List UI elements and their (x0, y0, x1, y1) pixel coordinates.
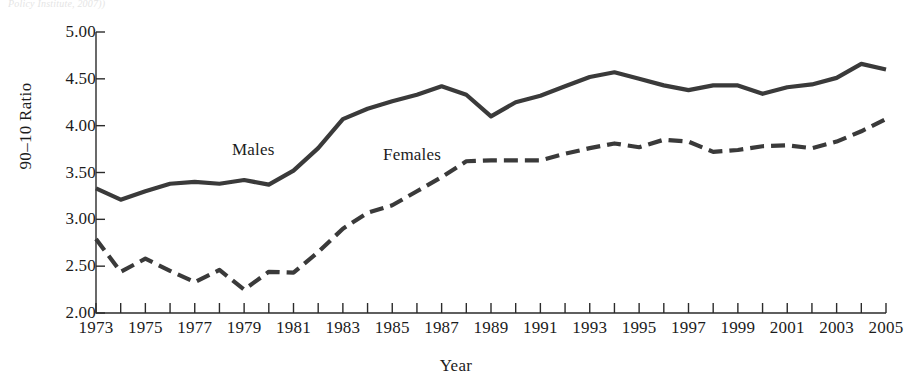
axis-lines (96, 32, 886, 313)
series-label-females: Females (383, 145, 441, 165)
plot-canvas (0, 0, 912, 386)
series-label-males: Males (232, 140, 275, 160)
series-line-females (96, 119, 886, 289)
chart-figure: Policy Institute, 2007)) 90–10 Ratio Yea… (0, 0, 912, 386)
series-line-males (96, 64, 886, 200)
